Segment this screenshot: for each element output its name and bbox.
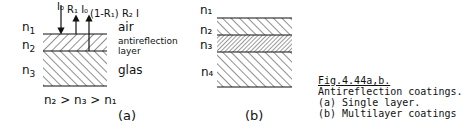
label-n1-a: n1 (22, 21, 35, 36)
substrate-n4 (217, 52, 292, 87)
label-n4-b: n₄ (201, 66, 213, 78)
figure-caption: Fig.4.44a,b. Antireflection coatings. (a… (318, 75, 463, 119)
panel-b (217, 18, 292, 87)
antireflection-layer (43, 34, 107, 51)
label-n2-a: n2 (22, 39, 35, 54)
glass-substrate (43, 51, 107, 86)
incident-beam-label: I₀ (57, 2, 64, 12)
medium-air-label: air (118, 21, 134, 33)
label-n1-b: n₁ (200, 4, 212, 16)
panel-a-label: (a) (118, 110, 136, 122)
layer-n3 (217, 35, 292, 52)
label-n3-a: n3 (22, 64, 35, 79)
caption-line-2: (a) Single layer. (318, 97, 463, 108)
reflected-beam-2-label: (1-R₁) R₂ I (90, 9, 139, 19)
refractive-index-condition: n₂ > n₃ > n₁ (44, 94, 117, 106)
layer-n2 (217, 18, 292, 35)
medium-antireflection-label: antireflection (118, 36, 178, 46)
medium-glas-label: glas (118, 64, 143, 76)
label-n3-b: n₃ (200, 39, 212, 51)
panel-b-label: (b) (245, 110, 263, 122)
caption-line-3: (b) Multilayer coatings (318, 108, 463, 119)
caption-title: Fig.4.44a,b. (318, 75, 463, 86)
label-n2-b: n₂ (200, 24, 212, 36)
medium-layer-label: layer (118, 46, 141, 56)
caption-line-1: Antireflection coatings. (318, 86, 463, 97)
reflected-beam-1-label: R₁ I₀ (67, 5, 88, 15)
